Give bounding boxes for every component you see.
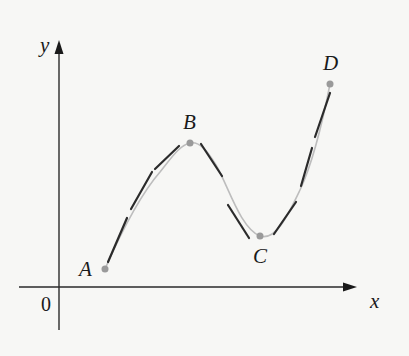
- point-b: [187, 140, 194, 147]
- segment-3: [155, 146, 179, 169]
- arc-length-diagram: y x 0 A B C D: [0, 0, 409, 356]
- smooth-curve: [105, 84, 330, 269]
- segment-5: [228, 205, 249, 238]
- polygon-segments: [108, 93, 330, 262]
- segment-1: [108, 218, 127, 262]
- point-c: [257, 233, 264, 240]
- point-d: [327, 81, 334, 88]
- label-a: A: [77, 257, 92, 281]
- segment-2: [131, 172, 152, 209]
- origin-label: 0: [41, 293, 51, 315]
- y-axis-label: y: [38, 33, 50, 57]
- x-axis-arrow-icon: [343, 283, 357, 292]
- label-d: D: [322, 51, 338, 75]
- segment-7: [301, 148, 312, 186]
- point-a: [102, 266, 109, 273]
- label-c: C: [253, 244, 268, 268]
- segment-8: [315, 93, 330, 137]
- curve-points: [102, 81, 334, 273]
- y-axis-arrow-icon: [55, 40, 64, 54]
- axes: [19, 40, 357, 330]
- label-b: B: [183, 110, 196, 134]
- segment-6: [274, 202, 296, 234]
- x-axis-label: x: [369, 289, 380, 313]
- segment-4: [201, 144, 222, 176]
